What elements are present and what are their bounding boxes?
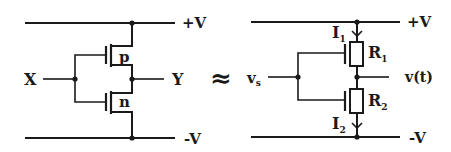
current-label-i2: I2: [332, 114, 346, 135]
junction-dot: [354, 74, 359, 79]
current-label-i1: I1: [332, 23, 346, 44]
supply-bottom-label-right: -V: [409, 129, 426, 147]
output-label-y: Y: [171, 70, 184, 89]
nmos-type-label: n: [119, 93, 130, 111]
resistor-label-r2: R2: [368, 91, 388, 112]
pmos-type-label: p: [119, 48, 130, 66]
gate-wire: [298, 53, 345, 100]
approx-symbol: ≈: [210, 63, 232, 93]
resistor-label-r1: R1: [368, 43, 388, 64]
resistor-r1: [350, 42, 363, 66]
input-label-vs: vs: [246, 69, 261, 88]
gate-wire: [75, 55, 106, 102]
supply-top-label-right: +V: [407, 13, 432, 31]
resistive-model: vs v(t) +V -V I1 I2 R1 R2: [246, 13, 433, 147]
supply-bottom-label: -V: [184, 130, 201, 148]
output-label-vt: v(t): [404, 69, 433, 85]
resistor-r2: [350, 89, 363, 113]
junction-dot: [129, 76, 134, 81]
junction-dot: [295, 74, 300, 79]
circuit-diagram: X Y +V -V p n ≈ vs: [0, 0, 451, 152]
cmos-inverter: X Y +V -V p n: [24, 14, 207, 148]
supply-top-label: +V: [182, 14, 207, 32]
input-label-x: X: [24, 70, 37, 89]
junction-dot: [72, 76, 77, 81]
